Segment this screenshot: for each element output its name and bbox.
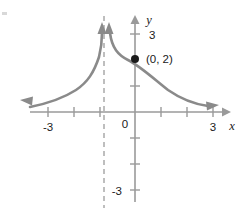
y-axis-label-3: 3 <box>149 29 155 41</box>
y-axis-name: y <box>144 13 152 27</box>
curve-left-branch-arrowhead-left <box>20 97 33 106</box>
origin-label: 0 <box>122 118 128 130</box>
x-axis-label-minus3: -3 <box>43 121 53 133</box>
curve-left-branch <box>30 33 102 107</box>
graph-figure: -3 3 0 3 -3 x y (0, 2) <box>0 0 245 217</box>
coordinate-plane: -3 3 0 3 -3 x y (0, 2) <box>0 0 245 217</box>
y-axis-arrowhead <box>131 15 140 24</box>
point-0-2-marker <box>131 55 139 63</box>
curve-right-branch-arrowhead-top <box>105 22 114 34</box>
x-axis-arrowhead <box>222 108 231 117</box>
curve-left-branch-arrowhead-top <box>98 22 107 34</box>
y-axis-label-minus3: -3 <box>112 185 122 197</box>
point-0-2-label: (0, 2) <box>146 53 173 65</box>
x-axis-name: x <box>228 119 235 133</box>
x-axis-label-3: 3 <box>210 121 216 133</box>
curve-right-branch <box>110 33 208 106</box>
